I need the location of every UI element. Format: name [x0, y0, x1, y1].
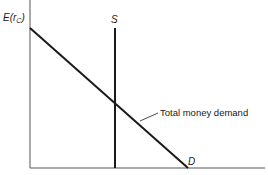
demand-label-leader	[140, 113, 158, 121]
demand-curve-label: Total money demand	[160, 108, 248, 118]
demand-label: D	[188, 157, 195, 167]
supply-label: S	[111, 15, 118, 25]
demand-line	[30, 28, 188, 168]
y-axis-label: E(rC)	[3, 13, 25, 24]
diagram-canvas	[0, 0, 268, 175]
